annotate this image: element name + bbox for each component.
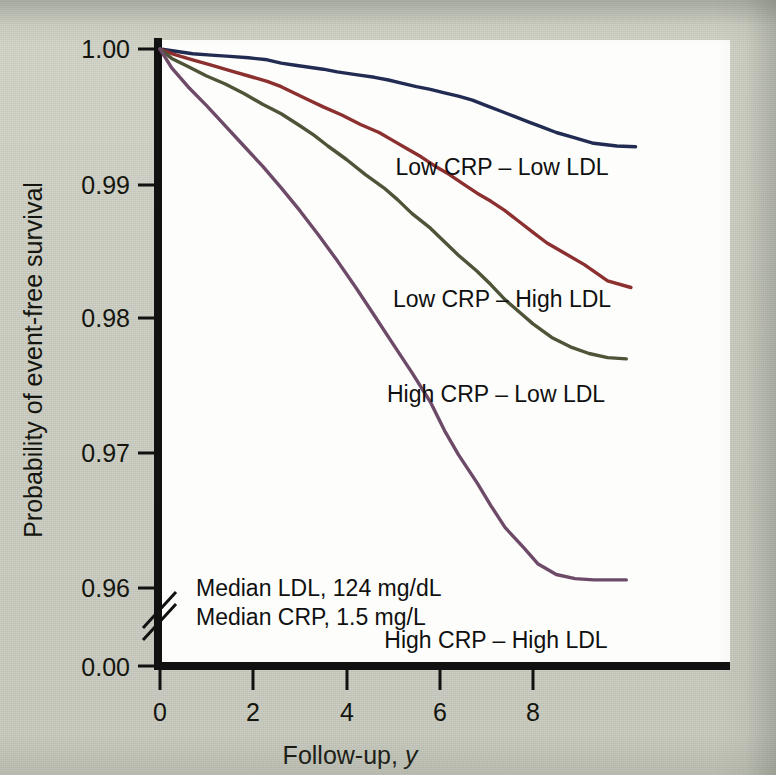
series-label-3: High CRP – Low LDL [387,381,605,407]
x-axis-title: Follow-up, y [283,741,419,769]
y-tick-label-1: 1.00 [81,35,130,63]
y-axis-title: Probability of event-free survival [19,182,47,538]
y-tick-label-3: 0.98 [81,304,130,332]
plot-area [160,40,730,668]
y-axis-line [154,38,162,670]
series-label-4: High CRP – High LDL [384,627,608,653]
y-tick-label-2: 0.99 [81,171,130,199]
x-axis-ticks [160,668,533,690]
y-tick-label-5: 0.96 [81,574,130,602]
median-ldl-annotation: Median LDL, 124 mg/dL [196,575,442,601]
y-tick-label-6: 0.00 [81,653,130,681]
y-tick-label-4: 0.97 [81,439,130,467]
x-tick-label-3: 4 [340,698,354,726]
x-tick-label-1: 0 [153,698,167,726]
series-label-2: Low CRP – High LDL [393,286,611,312]
survival-curve-chart: 1.00 0.99 0.98 0.97 0.96 0.00 0 2 4 6 8 … [0,0,776,775]
x-tick-label-4: 6 [433,698,447,726]
x-tick-label-2: 2 [246,698,260,726]
x-axis-line [154,662,730,670]
x-tick-label-5: 8 [526,698,540,726]
y-axis-ticks [138,49,156,666]
series-label-1: Low CRP – Low LDL [395,154,608,180]
